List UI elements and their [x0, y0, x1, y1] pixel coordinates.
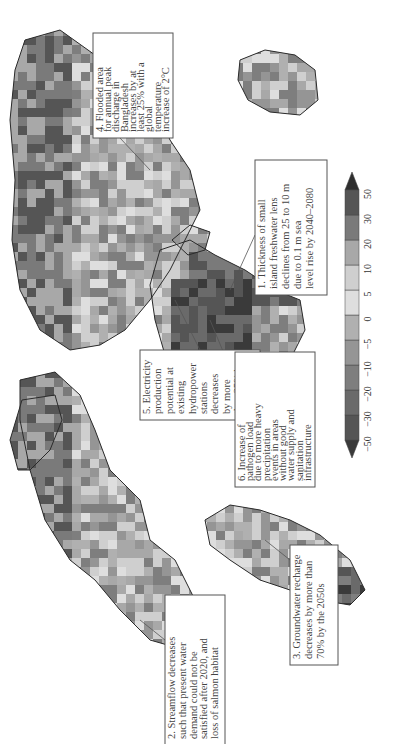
- grid-cell: [216, 468, 225, 477]
- grid-cell: [189, 486, 198, 495]
- grid-cell: [342, 648, 351, 657]
- grid-cell: [72, 72, 81, 81]
- grid-cell: [180, 144, 189, 153]
- grid-cell: [63, 648, 72, 657]
- grid-cell: [99, 639, 108, 648]
- grid-cell: [108, 288, 117, 297]
- grid-cell: [162, 477, 171, 486]
- grid-cell: [81, 324, 90, 333]
- grid-cell: [243, 648, 252, 657]
- grid-cell: [117, 504, 126, 513]
- grid-cell: [36, 180, 45, 189]
- grid-cell: [216, 27, 225, 36]
- grid-cell: [342, 477, 351, 486]
- grid-cell: [135, 477, 144, 486]
- grid-cell: [216, 189, 225, 198]
- grid-cell: [369, 63, 378, 72]
- grid-cell: [0, 585, 9, 594]
- grid-cell: [108, 522, 117, 531]
- grid-cell: [45, 450, 54, 459]
- grid-cell: [72, 450, 81, 459]
- grid-cell: [315, 405, 324, 414]
- grid-cell: [225, 657, 234, 666]
- grid-cell: [378, 567, 387, 576]
- grid-cell: [369, 81, 378, 90]
- grid-cell: [18, 360, 27, 369]
- grid-cell: [216, 54, 225, 63]
- grid-cell: [90, 306, 99, 315]
- grid-cell: [207, 54, 216, 63]
- grid-cell: [18, 18, 27, 27]
- grid-cell: [54, 0, 63, 9]
- grid-cell: [144, 666, 153, 675]
- grid-cell: [369, 18, 378, 27]
- grid-cell: [207, 567, 216, 576]
- grid-cell: [9, 387, 18, 396]
- grid-cell: [369, 486, 378, 495]
- grid-cell: [108, 657, 117, 666]
- grid-cell: [81, 207, 90, 216]
- grid-cell: [270, 558, 279, 567]
- grid-cell: [378, 513, 387, 522]
- grid-cell: [333, 243, 342, 252]
- grid-cell: [234, 657, 243, 666]
- grid-cell: [315, 45, 324, 54]
- grid-cell: [207, 18, 216, 27]
- grid-cell: [18, 684, 27, 693]
- grid-cell: [234, 99, 243, 108]
- grid-cell: [0, 63, 9, 72]
- grid-cell: [333, 702, 342, 711]
- grid-cell: [261, 72, 270, 81]
- grid-cell: [198, 450, 207, 459]
- grid-cell: [324, 0, 333, 9]
- grid-cell: [0, 36, 9, 45]
- grid-cell: [198, 189, 207, 198]
- grid-cell: [45, 27, 54, 36]
- grid-cell: [189, 18, 198, 27]
- grid-cell: [108, 351, 117, 360]
- grid-cell: [117, 558, 126, 567]
- grid-cell: [36, 711, 45, 720]
- grid-cell: [0, 513, 9, 522]
- grid-cell: [54, 558, 63, 567]
- grid-cell: [180, 171, 189, 180]
- grid-cell: [180, 504, 189, 513]
- grid-cell: [45, 666, 54, 675]
- grid-cell: [333, 144, 342, 153]
- grid-cell: [351, 612, 360, 621]
- grid-cell: [189, 324, 198, 333]
- grid-cell: [342, 90, 351, 99]
- grid-cell: [378, 486, 387, 495]
- grid-cell: [45, 351, 54, 360]
- grid-cell: [108, 216, 117, 225]
- grid-cell: [117, 387, 126, 396]
- grid-cell: [378, 477, 387, 486]
- grid-cell: [252, 495, 261, 504]
- grid-cell: [243, 558, 252, 567]
- grid-cell: [54, 450, 63, 459]
- grid-cell: [351, 702, 360, 711]
- grid-cell: [378, 243, 387, 252]
- grid-cell: [108, 441, 117, 450]
- grid-cell: [315, 711, 324, 720]
- grid-cell: [198, 297, 207, 306]
- grid-cell: [45, 225, 54, 234]
- grid-cell: [189, 0, 198, 9]
- grid-cell: [207, 279, 216, 288]
- grid-cell: [279, 666, 288, 675]
- grid-cell: [297, 315, 306, 324]
- grid-cell: [117, 495, 126, 504]
- grid-cell: [189, 270, 198, 279]
- grid-cell: [342, 72, 351, 81]
- grid-cell: [342, 675, 351, 684]
- grid-cell: [0, 189, 9, 198]
- grid-cell: [54, 684, 63, 693]
- grid-cell: [369, 45, 378, 54]
- grid-cell: [9, 360, 18, 369]
- grid-cell: [207, 45, 216, 54]
- grid-cell: [270, 0, 279, 9]
- grid-cell: [198, 270, 207, 279]
- grid-cell: [225, 432, 234, 441]
- grid-cell: [360, 612, 369, 621]
- grid-cell: [315, 36, 324, 45]
